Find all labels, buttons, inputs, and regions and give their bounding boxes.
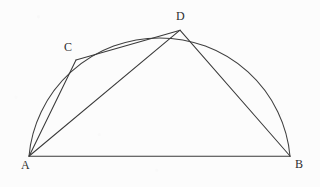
segment-CD [76, 30, 180, 60]
vertex-label-a: A [21, 159, 30, 171]
segment-AC [29, 60, 76, 156]
segment-DB [180, 30, 290, 156]
vertex-label-d: D [176, 10, 185, 22]
arc-AB [29, 38, 290, 156]
vertex-label-b: B [295, 158, 303, 170]
vertex-label-c: C [64, 41, 72, 53]
diagram-canvas: A B C D [0, 0, 320, 187]
geometry-figure [0, 0, 320, 187]
